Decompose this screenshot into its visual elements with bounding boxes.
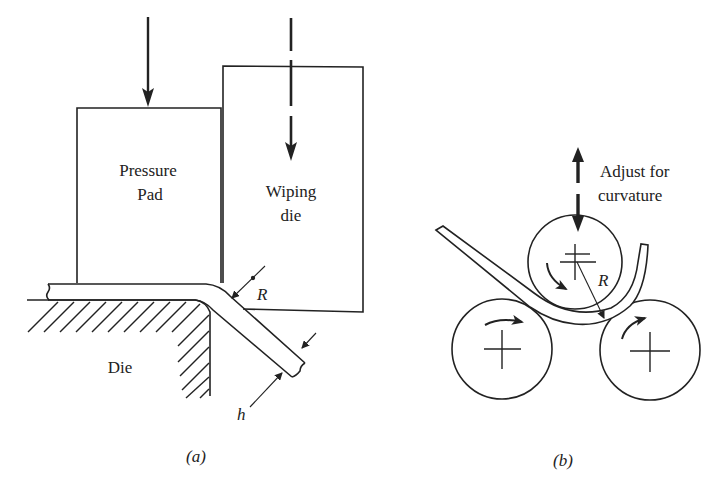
pressure-pad-label-line2: Pad — [137, 185, 163, 204]
adjust-label-line1: Adjust for — [600, 162, 670, 181]
thickness-label: h — [237, 405, 246, 424]
bottom-right-roll-center-mark-icon — [630, 332, 670, 372]
adjust-down-arrow-icon — [572, 194, 584, 232]
bottom-left-roll-rotation-arrow-icon — [485, 320, 522, 325]
bending-diagram: Pressure Pad Wiping die Die R h (a) — [0, 0, 717, 494]
panel-b-caption: (b) — [553, 451, 573, 470]
die-block — [27, 300, 210, 398]
panel-a-caption: (a) — [186, 447, 206, 466]
wiping-die-label-line2: die — [281, 206, 302, 225]
top-roll-center-mark-icon — [560, 244, 596, 280]
panel-a — [27, 17, 363, 407]
wiping-force-dashed-arrow-icon — [285, 18, 297, 161]
top-roll-rotation-arrow-icon — [547, 263, 566, 289]
bottom-right-roll-rotation-arrow-icon — [622, 318, 645, 339]
adjust-up-arrow-icon — [572, 147, 584, 183]
panel-b — [436, 147, 700, 400]
pressure-pad-label-line1: Pressure — [119, 161, 177, 180]
bottom-left-roll-center-mark-icon — [484, 330, 521, 369]
roll-radius-label: R — [597, 271, 609, 290]
radius-label: R — [256, 285, 268, 304]
wiping-die-label-line1: Wiping — [266, 182, 317, 201]
pressure-force-arrow-icon — [142, 17, 154, 107]
die-label: Die — [108, 358, 133, 377]
adjust-label-line2: curvature — [598, 186, 662, 205]
